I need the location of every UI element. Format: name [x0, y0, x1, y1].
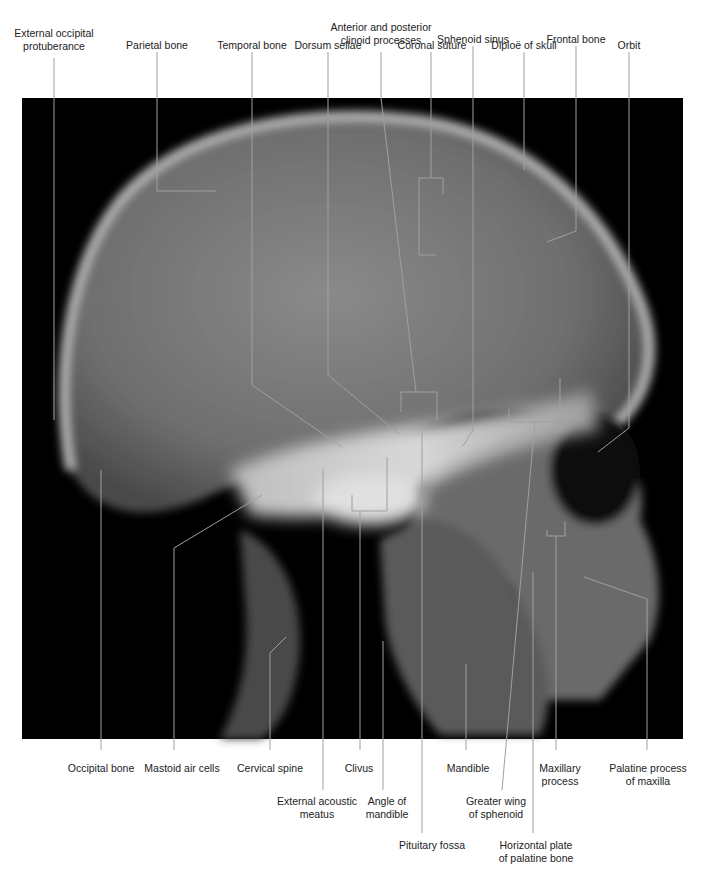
label-palatine-process-maxilla: Palatine process of maxilla	[609, 762, 687, 787]
label-maxillary-process: Maxillary process	[539, 762, 580, 787]
label-orbit: Orbit	[618, 39, 641, 52]
label-greater-wing-of-sphenoid: Greater wing of sphenoid	[466, 795, 526, 820]
label-mandible: Mandible	[447, 762, 490, 775]
label-external-occipital-protuberance: External occipital protuberance	[14, 27, 93, 52]
label-external-acoustic-meatus: External acoustic meatus	[277, 795, 357, 820]
label-clivus: Clivus	[345, 762, 374, 775]
label-angle-of-mandible: Angle of mandible	[366, 795, 409, 820]
label-horizontal-plate-palatine: Horizontal plate of palatine bone	[499, 839, 574, 864]
label-frontal-bone: Frontal bone	[547, 33, 606, 46]
skull-radiograph	[0, 0, 707, 887]
label-occipital-bone: Occipital bone	[68, 762, 135, 775]
label-mastoid-air-cells: Mastoid air cells	[144, 762, 219, 775]
label-parietal-bone: Parietal bone	[126, 39, 188, 52]
label-pituitary-fossa: Pituitary fossa	[399, 839, 465, 852]
label-temporal-bone: Temporal bone	[217, 39, 286, 52]
label-cervical-spine: Cervical spine	[237, 762, 303, 775]
